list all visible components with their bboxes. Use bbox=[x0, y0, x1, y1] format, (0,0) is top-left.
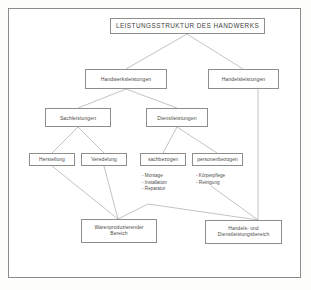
node-veredelung[interactable]: Veredelung bbox=[81, 153, 127, 166]
node-handelsleistungen[interactable]: Handelsleistungen bbox=[208, 69, 279, 89]
node-label: Herstellung bbox=[39, 157, 65, 163]
diagram-page: LEISTUNGSSTRUKTUR DES HANDWERKS Handwerk… bbox=[0, 0, 311, 290]
node-leistungsstruktur-des-handwerks[interactable]: LEISTUNGSSTRUKTUR DES HANDWERKS bbox=[110, 18, 265, 34]
connector-lines bbox=[0, 0, 311, 290]
node-label: Handelsleistungen bbox=[222, 76, 266, 82]
connector-sachleistungen-to-veredelung bbox=[78, 127, 104, 153]
connector-dienstleistungen-to-sachbezogen bbox=[163, 127, 177, 153]
connector-title-to-handelsleistungen bbox=[187, 34, 243, 69]
node-label: Handwerksleistungen bbox=[101, 76, 152, 82]
connector-sachleistungen-to-herstellung bbox=[52, 127, 78, 153]
list-personenbezogen-examples: Körperpflege Reinigung bbox=[196, 173, 225, 186]
node-label: sachbezogen bbox=[148, 157, 178, 163]
node-personenbezogen[interactable]: personenbezogen bbox=[192, 153, 243, 166]
node-label-line2: Bereich bbox=[110, 231, 127, 237]
list-item: Installation bbox=[142, 180, 167, 187]
list-item: Reinigung bbox=[196, 180, 225, 187]
node-warenproduzierender-bereich[interactable]: Warenproduzierender Bereich bbox=[81, 219, 157, 243]
node-label: Veredelung bbox=[91, 157, 117, 163]
node-label-line2: Dienstleistungsbereich bbox=[218, 232, 269, 238]
node-label: Dienstleistungen bbox=[157, 115, 196, 121]
connector-sachbezogen-to-handelsbereich bbox=[148, 204, 258, 220]
list-sachbezogen-examples: Montage Installation Reparatur bbox=[142, 173, 167, 193]
connector-title-to-handwerksleistungen bbox=[126, 34, 187, 69]
connector-herstellung-to-warenbereich bbox=[52, 166, 118, 219]
node-label: LEISTUNGSSTRUKTUR DES HANDWERKS bbox=[116, 22, 259, 30]
list-item: Reparatur bbox=[142, 186, 167, 193]
node-sachbezogen[interactable]: sachbezogen bbox=[140, 153, 186, 166]
connector-veredelung-to-warenbereich bbox=[104, 166, 118, 219]
connector-handwerks-to-dienstleistungen bbox=[126, 89, 177, 108]
connector-dienstleistungen-to-personenbezogen bbox=[177, 127, 217, 153]
connector-handwerks-to-sachleistungen bbox=[78, 89, 126, 108]
node-label: personenbezogen bbox=[197, 157, 238, 163]
node-handwerksleistungen[interactable]: Handwerksleistungen bbox=[85, 69, 167, 89]
node-dienstleistungen[interactable]: Dienstleistungen bbox=[146, 108, 208, 127]
connector-personenbezogen-to-handelsbereich bbox=[211, 186, 258, 220]
node-sachleistungen[interactable]: Sachleistungen bbox=[45, 108, 111, 127]
connector-sachbezogen-to-warenbereich bbox=[118, 204, 148, 219]
node-handels-und-dienstleistungsbereich[interactable]: Handels- und Dienstleistungsbereich bbox=[205, 220, 282, 244]
node-label: Sachleistungen bbox=[60, 115, 96, 121]
node-herstellung[interactable]: Herstellung bbox=[29, 153, 75, 166]
list-item: Körperpflege bbox=[196, 173, 225, 180]
list-item: Montage bbox=[142, 173, 167, 180]
